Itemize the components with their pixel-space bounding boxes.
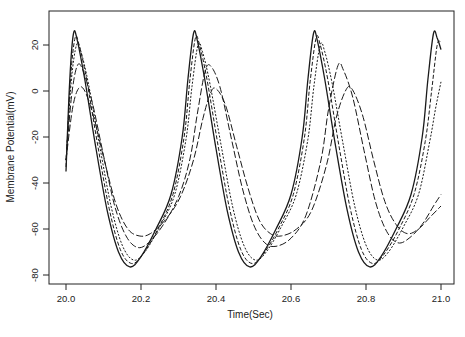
x-axis-title: Time(Sec)	[227, 309, 273, 320]
x-tick-label: 20.0	[57, 293, 76, 304]
y-tick-label: -60	[29, 222, 40, 236]
y-tick-label: -40	[29, 176, 40, 190]
y-axis-title: Membrane Potential(mV)	[5, 91, 16, 202]
y-tick-label: 20	[29, 40, 40, 51]
y-tick-label: -80	[29, 268, 40, 282]
y-tick-label: 0	[29, 88, 40, 93]
x-tick-label: 20.6	[282, 293, 301, 304]
y-tick-label: -20	[29, 130, 40, 144]
membrane-potential-chart: 20.020.220.420.620.821.0 200-20-40-60-80…	[0, 0, 465, 337]
x-tick-label: 20.2	[132, 293, 151, 304]
x-tick-label: 20.8	[357, 293, 376, 304]
x-tick-label: 20.4	[207, 293, 226, 304]
x-tick-label: 21.0	[432, 293, 451, 304]
chart-background	[0, 0, 465, 337]
